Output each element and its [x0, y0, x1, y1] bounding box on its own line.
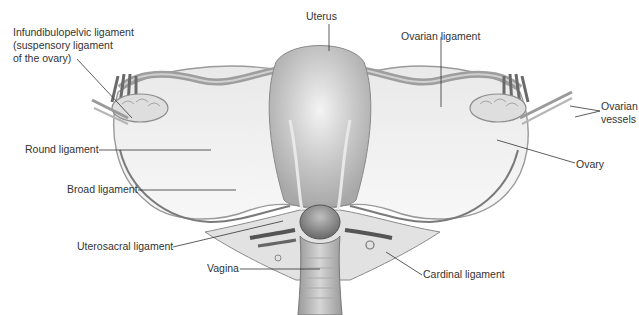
label-infundibulopelvic-line3: of the ovary)	[13, 52, 71, 65]
label-ovarian-vessels-line1: Ovarian	[601, 100, 638, 113]
label-cardinal-ligament: Cardinal ligament	[423, 268, 505, 281]
label-infundibulopelvic-line2: (suspensory ligament	[13, 39, 113, 52]
label-round-ligament: Round ligament	[25, 143, 99, 156]
label-uterosacral-ligament: Uterosacral ligament	[77, 240, 173, 253]
label-broad-ligament: Broad ligament	[67, 183, 138, 196]
label-ovary: Ovary	[576, 158, 604, 171]
cervix-shape	[300, 205, 340, 239]
uterus-shape	[269, 46, 371, 211]
right-ovary	[470, 94, 526, 122]
label-uterus: Uterus	[306, 10, 337, 23]
label-infundibulopelvic-line1: Infundibulopelvic ligament	[13, 26, 134, 39]
anatomy-diagram: Uterus Infundibulopelvic ligament (suspe…	[0, 0, 639, 315]
label-ovarian-vessels-line2: vessels	[601, 113, 636, 126]
left-ovary	[112, 94, 168, 122]
label-vagina: Vagina	[207, 262, 239, 275]
vagina-shape	[298, 236, 342, 315]
label-ovarian-ligament: Ovarian ligament	[401, 30, 480, 43]
